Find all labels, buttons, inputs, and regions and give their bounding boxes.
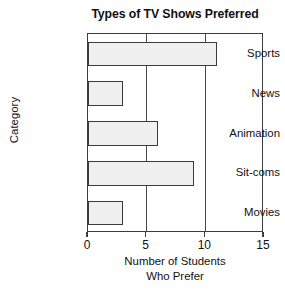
xtick-mark-0 <box>86 232 87 237</box>
bar-sports <box>88 42 217 66</box>
ytick-label-news: News <box>201 87 285 99</box>
xtick-label-0: 0 <box>67 238 107 252</box>
xtick-mark-10 <box>204 232 205 237</box>
x-axis-title-line2: Who Prefer <box>87 269 263 284</box>
x-axis-title: Number of Students Who Prefer <box>87 254 263 284</box>
xtick-label-5: 5 <box>126 238 166 252</box>
bar-animation <box>88 121 158 145</box>
bar-news <box>88 81 123 105</box>
xtick-label-10: 10 <box>184 238 224 252</box>
bar-chart-figure: Types of TV Shows Preferred 0 5 10 15 Sp… <box>0 0 285 294</box>
ytick-label-movies: Movies <box>201 206 285 218</box>
bar-sit-coms <box>88 161 194 185</box>
xtick-mark-5 <box>145 232 146 237</box>
xtick-label-15: 15 <box>243 238 283 252</box>
bar-movies <box>88 201 123 225</box>
xtick-mark-15 <box>262 232 263 237</box>
chart-title: Types of TV Shows Preferred <box>87 7 263 21</box>
y-axis-title: Category <box>8 75 20 165</box>
x-axis-title-line1: Number of Students <box>87 254 263 269</box>
ytick-label-sit-coms: Sit-coms <box>201 166 285 178</box>
ytick-label-animation: Animation <box>201 127 285 139</box>
ytick-label-sports: Sports <box>201 47 285 59</box>
